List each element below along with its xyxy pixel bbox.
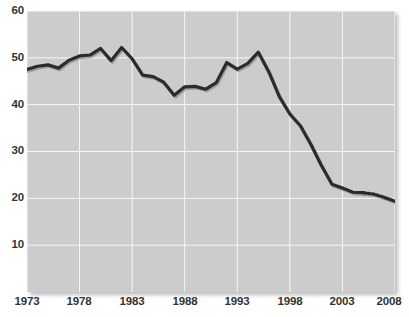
- chart-container: 60 50 40 30 20 10 1973 1978 1983 1988 19…: [0, 0, 409, 317]
- x-tick-label-2003: 2003: [322, 295, 362, 308]
- y-tick-label-10: 10: [0, 239, 24, 250]
- y-tick-label-20: 20: [0, 192, 24, 203]
- y-tick-label-40: 40: [0, 99, 24, 110]
- y-tick-label-50: 50: [0, 52, 24, 63]
- x-tick-label-1998: 1998: [270, 295, 310, 308]
- x-tick-label-1978: 1978: [59, 295, 99, 308]
- gridlines: [27, 11, 395, 292]
- series-line-value-solid-0: [27, 48, 363, 193]
- x-tick-label-1973: 1973: [7, 295, 47, 308]
- y-axis: 60 50 40 30 20 10: [0, 0, 24, 300]
- x-tick-label-1983: 1983: [112, 295, 152, 308]
- series-group: [27, 48, 395, 203]
- y-tick-label-60: 60: [0, 5, 24, 16]
- y-tick-label-30: 30: [0, 145, 24, 156]
- series-0-shadow-0: [28, 49, 364, 194]
- plot-area: [27, 11, 395, 292]
- x-tick-label-1993: 1993: [217, 295, 257, 308]
- x-axis: 1973 1978 1983 1988 1993 1998 2003 2008: [0, 295, 409, 315]
- x-tick-label-1988: 1988: [165, 295, 205, 308]
- chart-plot-svg: [27, 11, 395, 292]
- x-tick-label-2008: 2008: [369, 295, 409, 308]
